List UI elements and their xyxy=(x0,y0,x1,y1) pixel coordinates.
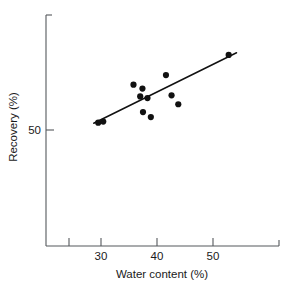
data-point xyxy=(137,93,143,99)
data-point xyxy=(175,101,181,107)
scatter-plot-figure: 50 30 40 50 Water content (%) Recovery (… xyxy=(0,0,285,285)
axis-frame xyxy=(46,15,279,246)
data-point xyxy=(168,92,174,98)
x-tick-label-50: 50 xyxy=(207,250,220,262)
x-axis-ticks xyxy=(69,238,213,246)
data-point xyxy=(139,85,145,91)
x-tick-label-40: 40 xyxy=(151,250,164,262)
x-axis-title: Water content (%) xyxy=(116,268,208,280)
regression-line xyxy=(94,53,237,124)
data-point xyxy=(140,109,146,115)
data-point xyxy=(148,114,154,120)
data-point xyxy=(100,119,106,125)
data-point xyxy=(144,95,150,101)
plot-canvas: 50 30 40 50 Water content (%) Recovery (… xyxy=(0,0,285,285)
y-axis-title: Recovery (%) xyxy=(7,92,19,162)
data-point xyxy=(226,52,232,58)
data-point xyxy=(130,82,136,88)
data-point xyxy=(163,72,169,78)
x-tick-label-30: 30 xyxy=(95,250,108,262)
y-tick-label-50: 50 xyxy=(28,124,41,136)
